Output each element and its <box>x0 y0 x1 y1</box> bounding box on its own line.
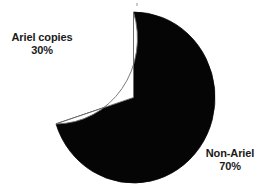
pie-label-non-ariel-name: Non-Ariel <box>196 147 264 160</box>
pie-label-ariel-copies-value: 30% <box>4 44 80 57</box>
pie-label-ariel-copies-name: Ariel copies <box>4 31 80 44</box>
pie-label-non-ariel: Non-Ariel 70% <box>196 147 264 172</box>
scan-artifact-speck <box>136 3 138 6</box>
pie-label-ariel-copies: Ariel copies 30% <box>4 31 80 56</box>
pie-label-non-ariel-value: 70% <box>196 160 264 173</box>
pie-chart-figure: Ariel copies 30% Non-Ariel 70% <box>0 0 266 192</box>
